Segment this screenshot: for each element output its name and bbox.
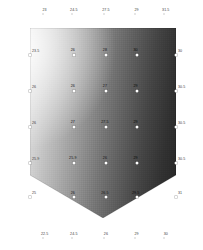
data-point-marker [104, 53, 107, 56]
data-point-label: 27 [103, 84, 107, 88]
data-point-label: 25.9 [69, 156, 76, 160]
data-point-label: 26.5 [101, 191, 108, 195]
bottom-axis-label: 22.5 [41, 232, 48, 236]
top-axis-tick [71, 14, 72, 15]
bottom-axis-label: 29 [134, 232, 138, 236]
bottom-axis-tick [103, 238, 104, 239]
data-point-marker [72, 125, 75, 128]
top-axis-label: 31.5 [162, 8, 169, 12]
data-point-marker [135, 161, 138, 164]
data-point-label: 26 [71, 48, 75, 52]
data-point-marker [135, 89, 138, 92]
data-point-marker [72, 53, 75, 56]
data-point-label: 26 [103, 156, 107, 160]
data-point-marker [104, 125, 107, 128]
edge-point-marker [175, 89, 178, 92]
top-axis-tick [134, 14, 135, 15]
edge-point-marker [175, 125, 178, 128]
bottom-axis-label: 24.5 [70, 232, 77, 236]
data-point-marker [135, 196, 138, 199]
edge-point-marker [175, 161, 178, 164]
edge-point-marker [29, 53, 32, 56]
data-point-label: 29 [133, 84, 137, 88]
top-axis-label: 29 [134, 8, 138, 12]
right-axis-label: 30.5 [178, 121, 185, 125]
data-point-marker [104, 196, 107, 199]
data-point-label: 29 [133, 120, 137, 124]
data-point-label: 26 [71, 84, 75, 88]
left-axis-label: 26 [32, 85, 36, 89]
figure-canvas: 2628302627292727.52925.926292626.529.523… [0, 0, 203, 250]
data-point-marker [104, 161, 107, 164]
edge-point-marker [175, 196, 178, 199]
data-point-label: 28 [103, 48, 107, 52]
left-axis-label: 23.5 [32, 49, 39, 53]
data-point-marker [72, 89, 75, 92]
data-point-marker [135, 53, 138, 56]
bottom-axis-label: 30 [164, 232, 168, 236]
data-point-label: 30 [133, 48, 137, 52]
top-axis-label: 24.5 [70, 8, 77, 12]
edge-point-marker [29, 125, 32, 128]
left-axis-label: 26 [32, 121, 36, 125]
bottom-axis-tick [163, 238, 164, 239]
data-point-marker [135, 125, 138, 128]
top-axis-label: 23 [42, 8, 46, 12]
edge-point-marker [29, 161, 32, 164]
left-axis-label: 25 [32, 191, 36, 195]
bottom-axis-label: 26 [104, 232, 108, 236]
edge-point-marker [29, 89, 32, 92]
bottom-axis-tick [134, 238, 135, 239]
data-point-label: 26 [71, 191, 75, 195]
top-axis-tick [103, 14, 104, 15]
caption-strip [0, 240, 203, 250]
data-point-label: 29 [133, 156, 137, 160]
edge-point-marker [29, 196, 32, 199]
left-axis-label: 25.9 [32, 157, 39, 161]
top-axis-tick [163, 14, 164, 15]
top-axis-label: 27.5 [102, 8, 109, 12]
data-point-label: 27.5 [101, 120, 108, 124]
right-axis-label: 30.5 [178, 85, 185, 89]
data-point-marker [72, 161, 75, 164]
data-point-marker [104, 89, 107, 92]
bottom-axis-tick [42, 238, 43, 239]
edge-point-marker [175, 53, 178, 56]
data-point-label: 29.5 [132, 191, 139, 195]
right-axis-label: 30 [178, 49, 182, 53]
right-axis-label: 31 [178, 191, 182, 195]
bottom-axis-tick [71, 238, 72, 239]
top-axis-tick [42, 14, 43, 15]
right-axis-label: 30.5 [178, 157, 185, 161]
data-point-label: 27 [71, 120, 75, 124]
data-point-marker [72, 196, 75, 199]
